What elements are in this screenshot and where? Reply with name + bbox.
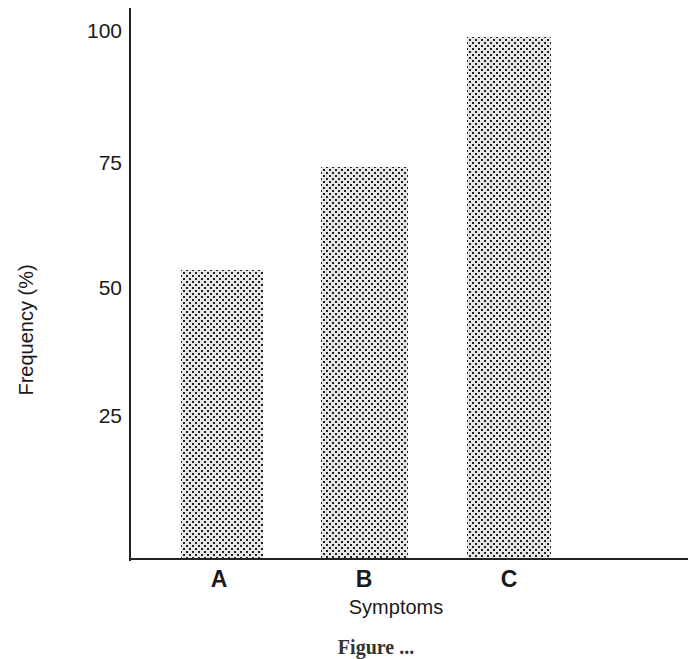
y-tick-25: 25 (99, 405, 122, 426)
y-axis-line (129, 8, 131, 561)
x-axis-title: Symptoms (349, 596, 443, 619)
y-axis-title: Frequency (%) (15, 264, 38, 395)
bar-b (321, 167, 408, 558)
category-label-b: B (356, 566, 373, 593)
x-axis-line (129, 558, 688, 560)
y-tick-100: 100 (87, 20, 122, 41)
y-tick-50: 50 (99, 277, 122, 298)
bar-a (181, 270, 263, 558)
category-label-a: A (211, 566, 228, 593)
bar-c (467, 37, 551, 558)
y-tick-75: 75 (99, 152, 122, 173)
category-label-c: C (501, 566, 518, 593)
figure-caption: Figure ... (338, 636, 414, 659)
